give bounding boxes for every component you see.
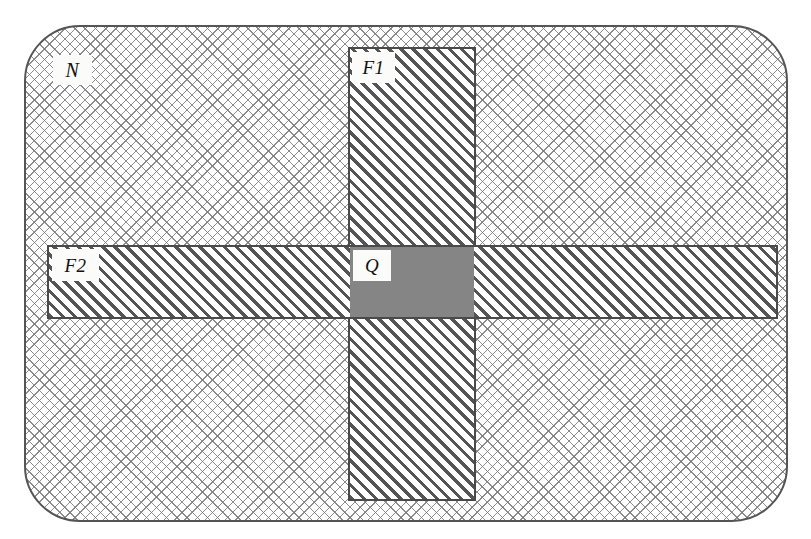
region-n-label: N (53, 55, 92, 85)
region-q-label: Q (353, 250, 391, 281)
region-diagram: N F1 F2 Q (0, 0, 811, 539)
region-f2-label: F2 (52, 249, 99, 281)
region-f1-label: F1 (352, 52, 395, 83)
